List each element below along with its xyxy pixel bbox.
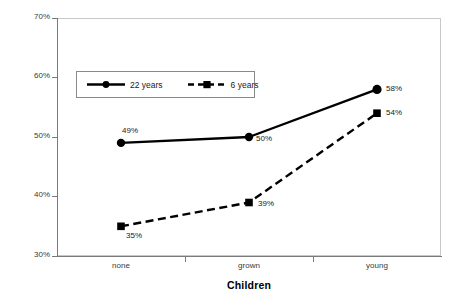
legend-entry-6-years: 6 years: [187, 79, 259, 90]
x-tick-label-grown: grown: [214, 261, 284, 270]
y-tick-label-60: 60%: [24, 72, 50, 80]
y-tick-mark-50: [52, 137, 57, 138]
line-chart: Percent Awarding Alimony 70% 60% 50% 40%…: [0, 0, 457, 302]
legend-sample-dashed-line-icon: [187, 79, 227, 90]
y-tick-label-40: 40%: [24, 191, 50, 199]
y-tick-mark-70: [52, 18, 57, 19]
x-tick-mark-1: [185, 257, 186, 262]
data-label-22-years-grown: 50%: [256, 135, 272, 143]
data-label-6-years-none: 35%: [126, 232, 142, 240]
x-axis-line: [57, 256, 442, 257]
y-tick-60: 60%: [22, 72, 50, 82]
data-label-22-years-young: 58%: [386, 85, 402, 93]
y-tick-label-70: 70%: [24, 13, 50, 21]
y-axis-line: [57, 18, 58, 257]
y-tick-50: 50%: [22, 132, 50, 142]
y-tick-mark-60: [52, 77, 57, 78]
y-tick-mark-40: [52, 196, 57, 197]
x-axis-title: Children: [57, 279, 441, 291]
y-tick-30: 30%: [22, 251, 50, 261]
data-label-22-years-none: 49%: [122, 127, 138, 135]
x-tick-label-young: young: [342, 261, 412, 270]
legend-label-22-years: 22 years: [130, 80, 163, 90]
y-tick-70: 70%: [22, 13, 50, 23]
y-tick-mark-30: [52, 256, 57, 257]
plot-area: [57, 18, 441, 256]
x-tick-mark-2: [313, 257, 314, 262]
y-tick-label-50: 50%: [24, 132, 50, 140]
data-label-6-years-young: 54%: [386, 109, 402, 117]
y-tick-label-30: 30%: [24, 251, 50, 259]
legend-entry-22-years: 22 years: [86, 79, 163, 90]
legend-sample-solid-line-icon: [86, 79, 126, 90]
data-label-6-years-grown: 39%: [258, 200, 274, 208]
legend: 22 years 6 years: [76, 71, 255, 98]
legend-label-6-years: 6 years: [231, 80, 259, 90]
y-tick-40: 40%: [22, 191, 50, 201]
x-tick-label-none: none: [86, 261, 156, 270]
